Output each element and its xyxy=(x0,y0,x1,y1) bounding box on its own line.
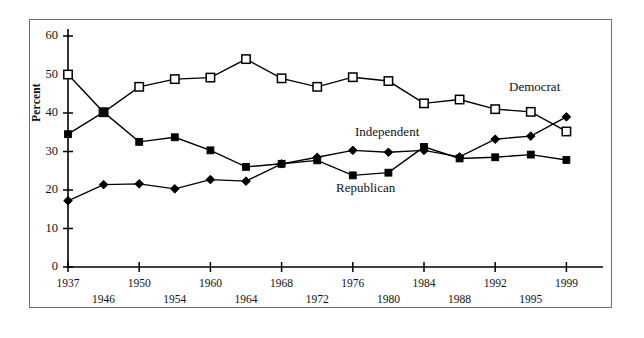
data-point-marker xyxy=(65,131,72,138)
x-tick-label: 1999 xyxy=(542,277,590,289)
x-tick-label: 1946 xyxy=(80,293,128,305)
data-point-marker xyxy=(527,108,535,116)
data-point-marker xyxy=(491,135,500,144)
data-point-marker xyxy=(527,151,534,158)
x-tick-label: 1972 xyxy=(293,293,341,305)
series-label-democrat: Democrat xyxy=(509,79,560,95)
data-point-marker xyxy=(349,172,356,179)
data-point-marker xyxy=(100,109,107,116)
x-tick-label: 1954 xyxy=(151,293,199,305)
y-tick-label: 50 xyxy=(32,67,58,82)
data-point-marker xyxy=(64,196,73,205)
data-point-marker xyxy=(384,148,393,157)
data-point-marker xyxy=(313,83,321,91)
x-tick-label: 1980 xyxy=(364,293,412,305)
y-tick-label: 20 xyxy=(32,182,58,197)
y-tick-label: 30 xyxy=(32,144,58,159)
data-point-marker xyxy=(492,154,499,161)
data-point-marker xyxy=(563,157,570,164)
data-point-marker xyxy=(420,99,428,107)
y-tick-label: 40 xyxy=(32,105,58,120)
data-point-marker xyxy=(349,73,357,81)
y-tick-label: 10 xyxy=(32,221,58,236)
x-tick-label: 1995 xyxy=(507,293,555,305)
data-point-marker xyxy=(277,74,285,82)
x-tick-label: 1937 xyxy=(44,277,92,289)
x-tick-label: 1960 xyxy=(186,277,234,289)
data-point-marker xyxy=(491,105,499,113)
data-point-marker xyxy=(243,164,250,171)
series-democrat xyxy=(64,55,571,136)
y-tick-label: 0 xyxy=(32,259,58,274)
data-point-marker xyxy=(206,73,214,81)
data-point-marker xyxy=(527,132,536,141)
data-point-marker xyxy=(242,177,251,186)
x-tick-label: 1964 xyxy=(222,293,270,305)
y-tick-label: 60 xyxy=(32,28,58,43)
series-label-republican: Republican xyxy=(336,180,395,196)
data-point-marker xyxy=(171,185,180,194)
x-tick-label: 1992 xyxy=(471,277,519,289)
data-point-marker xyxy=(207,147,214,154)
series-label-independent: Independent xyxy=(355,124,419,140)
data-point-marker xyxy=(385,169,392,176)
data-point-marker xyxy=(562,113,571,122)
axes-group xyxy=(63,29,603,272)
series-republican xyxy=(65,109,570,179)
data-point-marker xyxy=(349,146,358,155)
data-point-marker xyxy=(136,138,143,145)
x-tick-label: 1950 xyxy=(115,277,163,289)
x-tick-label: 1968 xyxy=(258,277,306,289)
data-point-marker xyxy=(242,55,250,63)
data-point-marker xyxy=(64,70,72,78)
data-point-marker xyxy=(135,180,144,189)
data-point-marker xyxy=(135,83,143,91)
data-point-marker xyxy=(171,75,179,83)
data-point-marker xyxy=(99,180,108,189)
data-point-marker xyxy=(171,134,178,141)
x-tick-label: 1984 xyxy=(400,277,448,289)
data-point-marker xyxy=(455,95,463,103)
x-tick-label: 1988 xyxy=(436,293,484,305)
figure-root: Percent 01020304050601937194619501954196… xyxy=(0,0,644,338)
data-point-marker xyxy=(562,127,570,135)
data-point-marker xyxy=(206,175,215,184)
data-point-marker xyxy=(384,77,392,85)
x-tick-label: 1976 xyxy=(329,277,377,289)
series-line xyxy=(68,59,566,131)
